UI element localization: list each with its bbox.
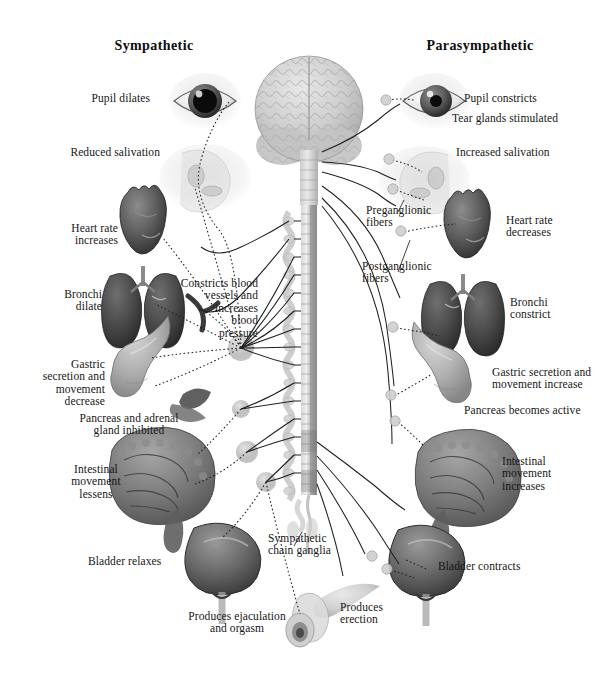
- label-reduced-salivation: Reduced salivation: [20, 146, 160, 158]
- label-pancreas-adrenal-inhibited: Pancreas and adrenal gland inhibited: [60, 412, 198, 437]
- label-heart-rate-increases: Heart rate increases: [30, 222, 118, 247]
- bladder-left-illustration: [185, 523, 261, 624]
- label-sympathetic-chain-ganglia: Sympathetic chain ganglia: [268, 532, 358, 557]
- label-produces-erection: Produces erection: [340, 601, 410, 626]
- label-postganglionic-fibers: Postganglionic fibers: [362, 260, 448, 285]
- figure-canvas: Sympathetic Parasympathetic Pupil dilate…: [0, 0, 616, 682]
- eye-dilated-illustration: [169, 73, 241, 129]
- brainstem-illustration: [300, 150, 318, 205]
- title-parasympathetic: Parasympathetic: [400, 38, 560, 54]
- label-intestinal-lessens: Intestinal movement lessens: [55, 463, 137, 500]
- head-salivary-left-illustration: [159, 144, 251, 212]
- label-bladder-contracts: Bladder contracts: [438, 560, 558, 572]
- brain-illustration: [255, 56, 363, 165]
- label-heart-rate-decreases: Heart rate decreases: [506, 214, 596, 239]
- title-sympathetic: Sympathetic: [84, 38, 224, 54]
- label-pupil-constricts: Pupil constricts: [464, 92, 594, 104]
- spinal-cord-illustration: [301, 205, 317, 553]
- label-intestinal-increases: Intestinal movement increases: [502, 455, 586, 492]
- label-tear-glands-stimulated: Tear glands stimulated: [452, 112, 612, 124]
- label-constricts-blood-vessels: Constricts blood vessels and increases b…: [176, 277, 258, 339]
- label-gastric-increase: Gastric secretion and movement increase: [492, 366, 616, 391]
- heart-right-illustration: [444, 189, 491, 258]
- label-preganglionic-fibers: Preganglionic fibers: [366, 204, 446, 229]
- label-pancreas-becomes-active: Pancreas becomes active: [464, 404, 616, 416]
- lungs-left-illustration: [101, 266, 184, 348]
- label-increased-salivation: Increased salivation: [456, 146, 606, 158]
- label-bronchi-constrict: Bronchi constrict: [510, 296, 590, 321]
- label-gastric-decrease: Gastric secretion and movement decrease: [20, 358, 105, 408]
- label-bladder-relaxes: Bladder relaxes: [88, 555, 208, 567]
- label-bronchi-dilate: Bronchi dilate: [30, 288, 102, 313]
- heart-left-illustration: [120, 185, 166, 254]
- label-pupil-dilates: Pupil dilates: [30, 92, 150, 104]
- label-produces-ejaculation: Produces ejaculation and orgasm: [172, 610, 302, 635]
